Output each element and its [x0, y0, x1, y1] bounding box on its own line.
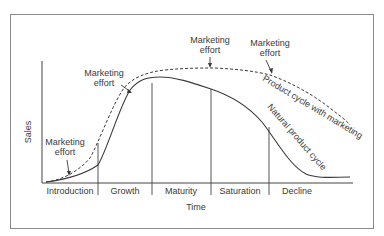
annotation-marketing-effort-maturity: Marketing effort [190, 35, 230, 68]
annotation-marketing-effort-saturation: Marketing effort [250, 38, 290, 74]
frame [11, 15, 374, 229]
svg-text:Marketing: Marketing [45, 137, 85, 147]
svg-text:Marketing: Marketing [250, 38, 290, 48]
annotation-marketing-effort-intro: Marketing effort [45, 137, 85, 176]
phase-decline: Decline [282, 186, 312, 196]
svg-text:effort: effort [260, 48, 281, 58]
svg-text:effort: effort [94, 78, 115, 88]
phase-growth: Growth [110, 186, 139, 196]
phase-introduction: Introduction [46, 186, 93, 196]
svg-text:Marketing: Marketing [84, 68, 124, 78]
product-life-cycle-diagram: Sales Time Introduction Growth Maturity … [0, 0, 384, 236]
arrowhead-icon [269, 68, 273, 74]
phase-saturation: Saturation [219, 186, 260, 196]
svg-text:effort: effort [200, 45, 221, 55]
natural-product-cycle-curve [46, 77, 350, 182]
annotation-marketing-effort-growth: Marketing effort [84, 68, 132, 93]
y-axis-label: Sales [23, 120, 33, 143]
svg-text:effort: effort [55, 147, 76, 157]
arrowhead-icon [208, 63, 212, 68]
phase-maturity: Maturity [165, 186, 198, 196]
svg-text:Marketing: Marketing [190, 35, 230, 45]
x-axis-label: Time [186, 202, 206, 212]
